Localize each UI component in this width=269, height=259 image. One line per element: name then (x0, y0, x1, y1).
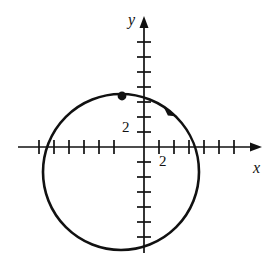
x-axis-arrowhead (250, 143, 262, 152)
x-axis-tick-label-2: 2 (159, 154, 167, 169)
y-axis-tick-label-2: 2 (122, 120, 130, 135)
x-axis-label: x (253, 160, 260, 176)
start-point-marker (118, 92, 127, 101)
y-axis-group (137, 16, 151, 253)
circle-curve (43, 94, 199, 250)
x-axis-group (18, 140, 262, 154)
y-axis-arrowhead (140, 16, 149, 28)
parametric-circle-figure: 2 2 x y (0, 0, 269, 259)
y-axis-label: y (128, 12, 135, 28)
figure-canvas (0, 0, 269, 259)
